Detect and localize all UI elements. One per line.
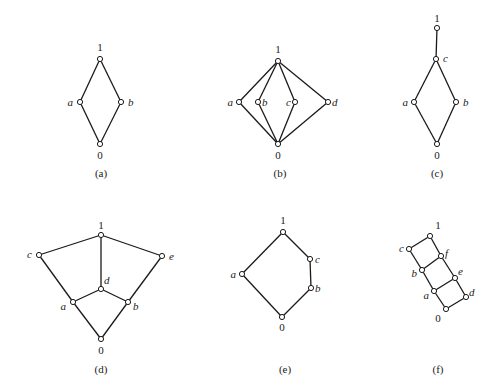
- edge-f-e: [441, 256, 455, 278]
- diagram-caption-b: (b): [274, 167, 287, 180]
- node-f: [438, 253, 443, 258]
- node-1: [434, 25, 439, 30]
- node-label-a: a: [403, 96, 409, 108]
- node-label-d: d: [104, 274, 110, 286]
- node-b: [255, 99, 260, 104]
- edge-d-0: [446, 297, 466, 309]
- node-label-a: a: [61, 300, 67, 312]
- node-label-0: 0: [98, 344, 104, 356]
- diagram-a-nodes: [77, 56, 123, 146]
- edge-1-e: [101, 235, 162, 256]
- edge-b-0: [258, 102, 278, 144]
- edges-layer: [39, 28, 466, 339]
- node-label-e: e: [169, 250, 174, 262]
- edge-c-a: [414, 59, 436, 102]
- node-label-1: 1: [435, 219, 441, 231]
- edge-1-b: [100, 59, 121, 102]
- node-a: [239, 271, 244, 276]
- node-label-a: a: [68, 96, 74, 108]
- node-a: [236, 99, 241, 104]
- node-c: [36, 252, 41, 257]
- node-e: [452, 275, 457, 280]
- labels-layer: 1ab0(a)1abcd0(b)1cab0(c)1cedab0(d)1cab0(…: [27, 12, 475, 376]
- edge-a-0: [239, 102, 278, 144]
- hasse-diagrams-canvas: 1ab0(a)1abcd0(b)1cab0(c)1cedab0(d)1cab0(…: [0, 0, 496, 390]
- edge-c-b: [436, 59, 456, 102]
- edge-a-0: [73, 302, 101, 339]
- edge-f-b: [422, 256, 441, 270]
- edge-1-a: [242, 232, 283, 274]
- node-c: [307, 256, 312, 261]
- node-c: [433, 56, 438, 61]
- node-label-0: 0: [435, 312, 441, 324]
- diagram-e-nodes: [239, 229, 313, 319]
- edge-1-c: [436, 28, 437, 59]
- diagram-e-labels: 1cab0(e): [231, 214, 322, 376]
- node-label-0: 0: [279, 321, 285, 333]
- node-1: [98, 232, 103, 237]
- edge-1-b: [258, 61, 278, 102]
- node-label-0: 0: [434, 149, 440, 161]
- node-a: [70, 299, 75, 304]
- node-b: [125, 299, 130, 304]
- node-label-c: c: [399, 242, 404, 254]
- node-label-c: c: [286, 96, 291, 108]
- diagram-caption-c: (c): [431, 167, 444, 180]
- node-label-b: b: [463, 96, 469, 108]
- node-label-e: e: [458, 265, 463, 277]
- lattice-diagrams-figure: 1ab0(a)1abcd0(b)1cab0(c)1cedab0(d)1cab0(…: [0, 0, 496, 390]
- node-d: [98, 286, 103, 291]
- node-1: [275, 58, 280, 63]
- node-0: [443, 306, 448, 311]
- node-label-1: 1: [280, 214, 286, 226]
- node-label-1: 1: [97, 41, 103, 53]
- node-label-1: 1: [275, 43, 281, 55]
- edge-b-a: [422, 270, 434, 291]
- node-c: [406, 246, 411, 251]
- node-label-1: 1: [434, 12, 440, 24]
- edge-1-c: [39, 235, 101, 255]
- edge-e-a: [434, 278, 455, 291]
- node-0: [98, 336, 103, 341]
- node-1: [427, 233, 432, 238]
- node-label-c: c: [315, 253, 320, 265]
- node-label-c: c: [27, 248, 32, 260]
- node-label-b: b: [133, 300, 139, 312]
- node-label-b: b: [262, 96, 268, 108]
- edge-b-0: [437, 102, 456, 144]
- edge-b-0: [100, 102, 121, 144]
- node-1: [280, 229, 285, 234]
- node-a: [77, 99, 82, 104]
- diagram-a-edges: [80, 59, 121, 144]
- node-label-0: 0: [97, 149, 103, 161]
- edge-e-b: [128, 256, 162, 302]
- node-0: [275, 141, 280, 146]
- node-b: [453, 99, 458, 104]
- edge-1-a: [239, 61, 278, 102]
- node-b: [419, 267, 424, 272]
- edge-c-b: [310, 259, 311, 288]
- edge-1-c: [409, 236, 430, 249]
- diagram-caption-a: (a): [95, 167, 108, 180]
- node-b: [118, 99, 123, 104]
- node-1: [97, 56, 102, 61]
- edge-a-0: [242, 274, 282, 317]
- node-0: [97, 141, 102, 146]
- diagram-b-nodes: [236, 58, 330, 146]
- edge-e-d: [455, 278, 466, 297]
- edge-b-0: [101, 302, 128, 339]
- diagram-b-labels: 1abcd0(b): [228, 43, 339, 180]
- edge-a-0: [434, 291, 446, 309]
- node-label-d: d: [469, 286, 475, 298]
- edge-a-0: [80, 102, 100, 144]
- nodes-layer: [36, 25, 468, 341]
- node-label-0: 0: [275, 149, 281, 161]
- node-c: [292, 99, 297, 104]
- diagram-c-nodes: [411, 25, 458, 146]
- node-label-a: a: [424, 289, 430, 301]
- edge-1-a: [80, 59, 100, 102]
- node-d: [325, 99, 330, 104]
- node-a: [411, 99, 416, 104]
- edge-1-c: [283, 232, 310, 259]
- diagram-e-edges: [242, 232, 311, 317]
